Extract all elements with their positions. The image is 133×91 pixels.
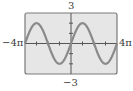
y-min-label: −3 bbox=[63, 78, 78, 88]
x-min-label: −4π bbox=[2, 38, 23, 48]
x-max-label: 4π bbox=[119, 38, 132, 48]
y-max-label: 3 bbox=[68, 1, 74, 11]
